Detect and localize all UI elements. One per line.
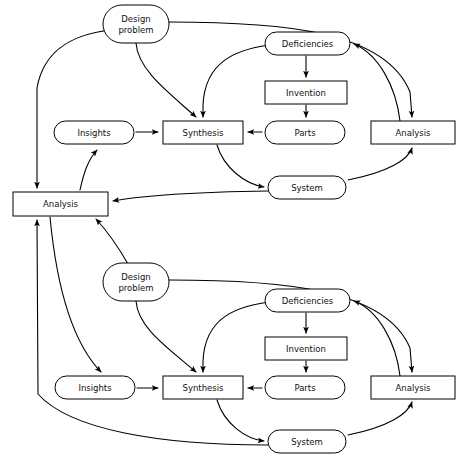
edge-synthesis-2-to-system-2 <box>217 400 264 441</box>
node-shape-insights-1 <box>54 121 134 144</box>
node-deficiencies-1[interactable]: Deficiencies <box>265 32 350 55</box>
edge-design-problem-1-to-analysis-left <box>37 30 111 188</box>
node-parts-1[interactable]: Parts <box>265 121 345 144</box>
node-insights-1[interactable]: Insights <box>54 121 134 144</box>
node-shape-parts-2 <box>265 376 345 399</box>
nodes-layer: DesignproblemDeficienciesInventionInsigh… <box>13 5 455 453</box>
node-shape-system-1 <box>268 176 346 199</box>
node-shape-parts-1 <box>265 121 345 144</box>
node-system-1[interactable]: System <box>268 176 346 199</box>
node-synthesis-2[interactable]: Synthesis <box>163 376 243 399</box>
node-design-problem-2[interactable]: Designproblem <box>103 263 169 301</box>
edge-design-problem-2-to-analysis-left <box>96 219 128 264</box>
edge-system-2-to-analysis-left <box>37 220 268 445</box>
node-insights-2[interactable]: Insights <box>55 376 135 399</box>
node-shape-invention-1 <box>265 81 347 104</box>
node-shape-system-2 <box>268 430 346 453</box>
design-process-diagram: DesignproblemDeficienciesInventionInsigh… <box>0 0 461 468</box>
node-design-problem-1[interactable]: Designproblem <box>103 5 169 43</box>
node-invention-2[interactable]: Invention <box>265 337 347 360</box>
edge-analysis-left-to-insights-1 <box>80 150 97 190</box>
node-shape-analysis-right-2 <box>371 376 455 399</box>
edge-system-1-to-analysis-left <box>113 191 268 201</box>
edge-design-problem-1-to-synthesis-1 <box>136 43 196 117</box>
node-shape-invention-2 <box>265 337 347 360</box>
node-shape-analysis-right-1 <box>371 121 455 144</box>
node-shape-synthesis-2 <box>163 376 243 399</box>
edge-analysis-left-to-insights-2 <box>50 217 101 372</box>
node-parts-2[interactable]: Parts <box>265 376 345 399</box>
node-analysis-right-2[interactable]: Analysis <box>371 376 455 399</box>
node-shape-design-problem-1 <box>103 5 169 43</box>
node-shape-design-problem-2 <box>103 263 169 301</box>
node-shape-insights-2 <box>55 376 135 399</box>
edge-synthesis-1-to-system-1 <box>217 145 264 187</box>
node-system-2[interactable]: System <box>268 430 346 453</box>
node-shape-synthesis-1 <box>163 121 243 144</box>
node-deficiencies-2[interactable]: Deficiencies <box>265 289 350 312</box>
edge-design-problem-2-to-synthesis-2 <box>136 301 196 372</box>
node-invention-1[interactable]: Invention <box>265 81 347 104</box>
node-analysis-right-1[interactable]: Analysis <box>371 121 455 144</box>
diagram-canvas: DesignproblemDeficienciesInventionInsigh… <box>0 0 461 468</box>
edge-system-1-to-analysis-right-1 <box>348 148 412 180</box>
node-shape-deficiencies-2 <box>265 289 350 312</box>
node-analysis-left[interactable]: Analysis <box>13 192 108 216</box>
node-shape-deficiencies-1 <box>265 32 350 55</box>
edge-analysis-right-1-to-deficiencies-1 <box>354 44 400 121</box>
node-synthesis-1[interactable]: Synthesis <box>163 121 243 144</box>
edge-system-2-to-analysis-right-2 <box>348 402 412 435</box>
node-shape-analysis-left <box>13 192 108 216</box>
